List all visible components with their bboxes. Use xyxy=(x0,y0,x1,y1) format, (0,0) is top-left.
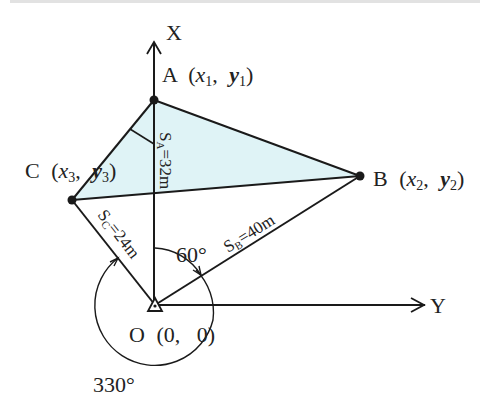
line-o-to-c xyxy=(72,200,155,305)
angle-label-60: 60° xyxy=(176,242,207,267)
label-origin: O (0, 0) xyxy=(129,322,215,347)
x-axis-label: X xyxy=(166,20,182,45)
point-c xyxy=(68,196,77,205)
line-o-to-b xyxy=(155,176,360,305)
triangle-abc-fill xyxy=(72,100,360,200)
label-b: B (x2, y2) xyxy=(373,166,464,193)
point-a xyxy=(150,96,159,105)
label-a: A (x1, y1) xyxy=(162,62,253,89)
point-b xyxy=(356,172,365,181)
angle-label-330: 330° xyxy=(93,372,135,397)
y-axis-label: Y xyxy=(430,293,446,318)
cropped-top-text xyxy=(10,0,480,3)
survey-diagram: X Y A (x1, y1) B (x2, y2) xyxy=(0,0,496,416)
distance-label-sc: SC=24m xyxy=(93,206,144,263)
y-axis xyxy=(155,298,425,312)
distance-label-sa: SA=32m xyxy=(155,132,175,189)
